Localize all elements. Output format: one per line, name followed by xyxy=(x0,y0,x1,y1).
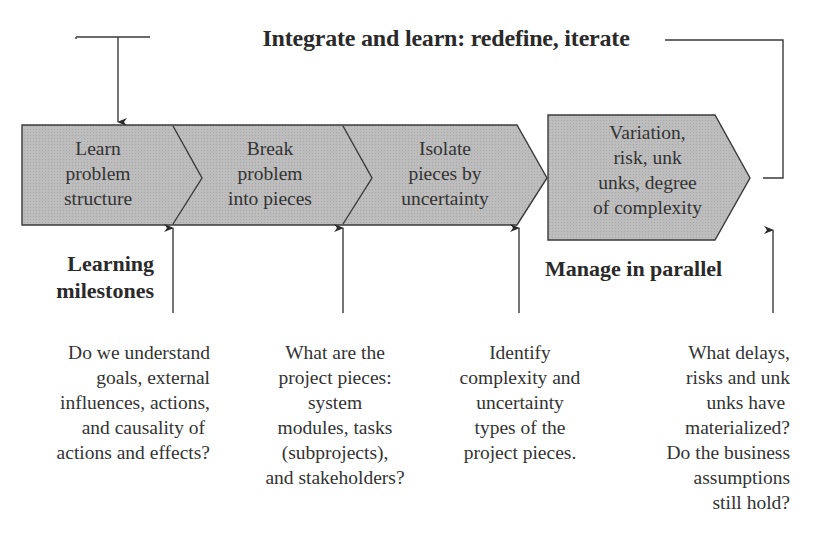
step-2-label: Break problem into pieces xyxy=(200,136,340,211)
step-3-label: Isolate pieces by uncertainty xyxy=(375,136,515,211)
milestone-question-1: Do we understand goals, external influen… xyxy=(10,340,210,465)
step-1-label: Learn problem structure xyxy=(38,136,158,211)
milestone-question-3: Identify complexity and uncertainty type… xyxy=(440,340,600,465)
manage-in-parallel-heading: Manage in parallel xyxy=(545,255,765,282)
milestone-question-4: What delays, risks and unk unks have mat… xyxy=(630,340,790,515)
learning-milestones-heading: Learning milestones xyxy=(20,250,154,304)
step-4-label: Variation, risk, unk unks, degree of com… xyxy=(560,120,735,220)
loop-title: Integrate and learn: redefine, iterate xyxy=(0,24,822,52)
loop-title-text: Integrate and learn: redefine, iterate xyxy=(254,25,637,51)
milestone-question-2: What are the project pieces: system modu… xyxy=(250,340,420,490)
